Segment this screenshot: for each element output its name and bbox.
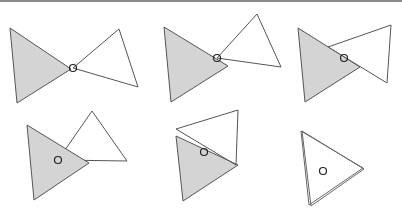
panel-1: [10, 28, 138, 103]
panel-2: [164, 14, 281, 102]
pivot-circle-icon: [320, 168, 327, 175]
panel-4: [27, 111, 127, 200]
panel-3: [298, 25, 391, 102]
white-triangle: [73, 29, 138, 87]
gray-triangle: [176, 136, 238, 201]
gray-triangle: [10, 28, 71, 103]
coincident-triangle-b: [302, 131, 364, 206]
panel-6: [301, 131, 364, 206]
rotation-diagram: [0, 0, 402, 217]
gray-triangle: [164, 27, 228, 102]
panel-5: [176, 110, 238, 201]
white-triangle: [217, 14, 281, 67]
coincident-triangle-a: [301, 131, 363, 205]
